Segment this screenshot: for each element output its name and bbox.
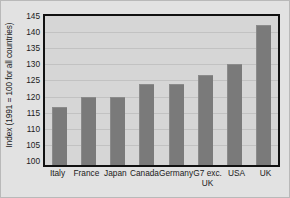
y-axis-tick-label: 130: [16, 59, 40, 69]
x-axis-tick-label: G7 exc. UK: [193, 168, 222, 196]
y-axis-tick-label: 100: [16, 156, 40, 166]
y-axis-tick-labels: 100105110115120125130135140145: [16, 9, 42, 167]
bar: [227, 64, 242, 166]
y-axis-title-label: Index (1991 = 100 for all countries): [4, 23, 14, 148]
bar-slot: [45, 16, 74, 165]
x-axis-tick-label: USA: [222, 168, 251, 196]
bar: [81, 97, 96, 165]
bar-slot: [103, 16, 132, 165]
bar: [256, 25, 271, 165]
bar: [139, 84, 154, 165]
bar: [169, 84, 184, 165]
x-axis-tick-label: Italy: [43, 168, 72, 196]
x-axis-tick-label: Canada: [130, 168, 159, 196]
y-axis-tick-label: 145: [16, 11, 40, 21]
bar-chart-figure: Index (1991 = 100 for all countries) 100…: [0, 0, 290, 198]
bar: [198, 75, 213, 165]
y-axis-tick-label: 135: [16, 43, 40, 53]
bar: [52, 107, 67, 165]
y-axis-tick-label: 115: [16, 108, 40, 118]
bar-slot: [191, 16, 220, 165]
bar-slot: [220, 16, 249, 165]
bar: [110, 97, 125, 165]
y-axis-tick-label: 110: [16, 124, 40, 134]
y-axis-tick-label: 120: [16, 92, 40, 102]
y-axis-tick-label: 105: [16, 140, 40, 150]
bar-slot: [249, 16, 278, 165]
bar-series: [45, 16, 278, 165]
bar-slot: [132, 16, 161, 165]
y-axis-title: Index (1991 = 100 for all countries): [2, 1, 16, 169]
bar-slot: [74, 16, 103, 165]
x-axis-tick-labels: ItalyFranceJapanCanadaGermanyG7 exc. UKU…: [43, 168, 280, 196]
plot-area: [43, 14, 280, 167]
x-axis-tick-label: Japan: [101, 168, 130, 196]
x-axis-tick-label: France: [72, 168, 101, 196]
y-axis-tick-label: 125: [16, 75, 40, 85]
bar-slot: [162, 16, 191, 165]
y-axis-tick-label: 140: [16, 27, 40, 37]
x-axis-tick-label: UK: [251, 168, 280, 196]
x-axis-tick-label: Germany: [159, 168, 193, 196]
